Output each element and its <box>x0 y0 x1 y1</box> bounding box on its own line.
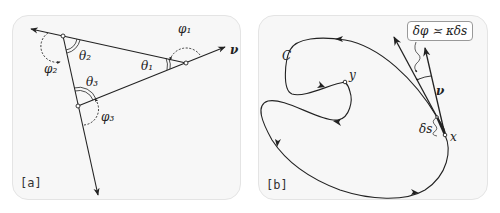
curve-direction-arrows <box>275 36 419 195</box>
label-y: y <box>349 69 356 81</box>
label-theta2: θ₂ <box>79 50 91 62</box>
label-theta1: θ₁ <box>141 60 153 72</box>
vertex-points <box>61 34 188 108</box>
panel-b-tag: [b] <box>266 179 288 191</box>
panel-a-tag: [a] <box>20 177 42 189</box>
label-x: x <box>450 131 457 143</box>
dphi-arc <box>419 76 431 79</box>
equation-box: δφ ≍ κδs <box>407 21 473 41</box>
edge-ba-arrow <box>31 29 186 63</box>
panel-a-lines <box>31 29 225 195</box>
label-phi3: φ₃ <box>101 111 114 123</box>
equation-leader <box>415 42 420 72</box>
label-phi1: φ₁ <box>178 23 191 35</box>
label-theta3: θ₃ <box>86 76 98 88</box>
label-phi2: φ₂ <box>44 63 57 75</box>
phi-arcs <box>41 33 200 125</box>
label-v-b: ν <box>436 85 444 97</box>
label-ds: δs <box>419 123 432 135</box>
tangent-y-arrow <box>394 37 437 117</box>
ds-brace <box>433 118 437 136</box>
label-curve-c: C <box>282 50 291 62</box>
label-v-a: ν <box>230 44 238 56</box>
